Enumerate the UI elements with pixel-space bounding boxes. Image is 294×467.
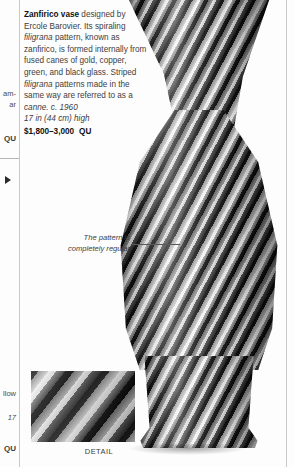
detail-inset-image <box>31 371 135 442</box>
triangle-marker-icon <box>5 176 11 184</box>
caption-text: Zanfirico vase designed by Ercole Barovi… <box>24 9 148 138</box>
caption-italic-2: filigrana <box>24 80 53 89</box>
annotation-leader-line <box>132 244 180 245</box>
caption-price: $1,800–3,000QU <box>24 126 148 138</box>
column-rule-right <box>286 0 287 467</box>
price-dealer-code: QU <box>79 127 91 136</box>
vase-body <box>112 110 286 370</box>
gutter-text-fragment-1: am- <box>0 89 16 98</box>
annotation-line-1: The pattern is <box>22 233 130 244</box>
book-page-spread: am- ar QU llow 17 QU DETAIL Zanfirico va… <box>0 0 294 467</box>
gutter-text-fragment-2: ar <box>0 100 16 109</box>
price-value: $1,800–3,000 <box>24 127 74 136</box>
annotation-callout: The pattern is completely regular <box>22 233 130 254</box>
detail-label: DETAIL <box>44 447 154 456</box>
vase-foot <box>134 356 264 448</box>
entry-divider-rule <box>0 158 19 159</box>
gutter-dealer-code-2: QU <box>0 444 16 453</box>
gutter-dealer-code-1: QU <box>0 134 16 143</box>
caption-italic-3: canne. c. 1960 <box>24 103 78 112</box>
caption-lead-in: Zanfirico vase <box>24 10 79 19</box>
annotation-line-2: completely regular <box>22 244 130 255</box>
column-rule-left <box>19 0 20 467</box>
gutter-text-fragment-3: llow <box>0 389 16 398</box>
caption-dimensions: 17 in (44 cm) high <box>24 113 148 125</box>
gutter-text-fragment-4: 17 <box>0 413 16 422</box>
caption-italic-1: filigrana <box>24 33 53 42</box>
